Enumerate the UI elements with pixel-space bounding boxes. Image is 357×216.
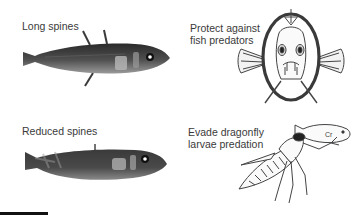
dragonfly-larva-catching-fish-drawing: Cr [235, 115, 357, 205]
scale-bar [0, 212, 48, 215]
reduced-spine-stickleback-photo [15, 140, 175, 200]
label-reduced-spines: Reduced spines [22, 125, 97, 137]
long-spined-stickleback-photo [15, 28, 175, 93]
fish-front-view-drawing [235, 5, 357, 105]
svg-text:Cr: Cr [325, 131, 333, 138]
